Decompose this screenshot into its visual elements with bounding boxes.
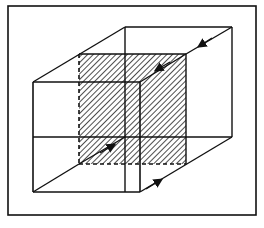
cube-diagram	[0, 0, 264, 228]
cube-diagram-svg	[0, 0, 264, 228]
arrow-bottom-right-edge	[146, 181, 159, 189]
arrow-top-right-edge	[201, 38, 212, 45]
hatched-plane	[79, 54, 186, 164]
